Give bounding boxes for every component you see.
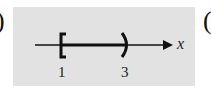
arrow-right-icon <box>163 40 173 50</box>
tick-label-3: 3 <box>121 64 129 81</box>
next-label-fragment: ( <box>203 6 211 36</box>
tick-label-1: 1 <box>58 64 66 81</box>
axis-variable-label: x <box>177 35 184 53</box>
